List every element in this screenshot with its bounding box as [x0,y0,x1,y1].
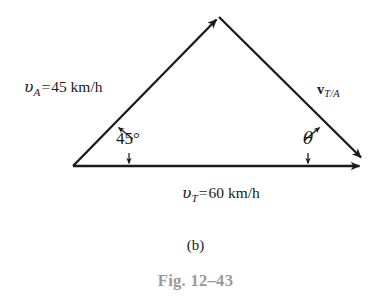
label-velocity-a-equals: = [40,78,51,95]
label-angle-theta: θ [303,130,313,147]
vector-triangle-diagram [0,0,391,306]
figure-part-label: (b) [0,238,391,253]
label-velocity-t-rel-a: vT/A [317,82,340,100]
label-velocity-t: υT=60 km/h [182,185,260,204]
label-velocity-t-rel-a-subscript: T/A [324,88,340,99]
label-angle-45: 45° [116,130,140,147]
label-velocity-a: υA=45 km/h [24,79,102,98]
label-velocity-t-subscript: T [191,192,197,204]
label-velocity-a-value: 45 km/h [51,78,102,95]
label-velocity-t-value: 60 km/h [209,184,260,201]
figure-number-caption: Fig. 12–43 [0,273,391,290]
figure-page: υA=45 km/h υT=60 km/h vT/A 45° θ (b) Fig… [0,0,391,306]
label-velocity-t-equals: = [198,184,209,201]
